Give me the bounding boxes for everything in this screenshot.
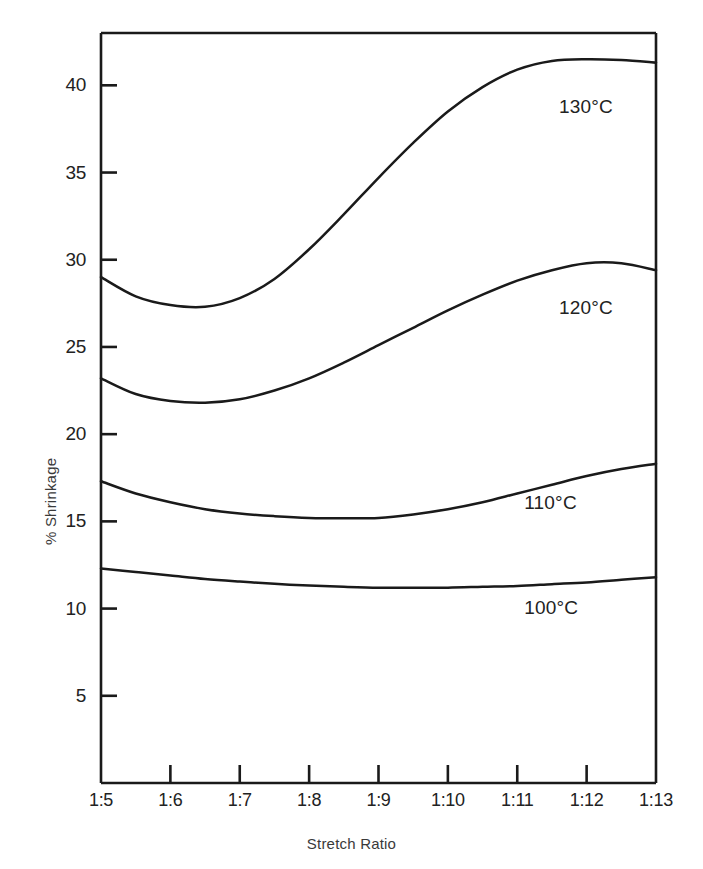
- x-tick-label: 1:7: [200, 790, 280, 811]
- y-tick-label: 5: [40, 685, 86, 707]
- x-tick-label: 1:6: [130, 790, 210, 811]
- y-axis-ticks: [101, 85, 117, 695]
- x-tick-label: 1:12: [547, 790, 627, 811]
- y-tick-label: 35: [40, 162, 86, 184]
- plot-area: [0, 0, 703, 869]
- series-label-100C: 100°C: [524, 597, 578, 619]
- y-tick-label: 25: [40, 336, 86, 358]
- y-tick-label: 20: [40, 423, 86, 445]
- y-tick-label: 30: [40, 249, 86, 271]
- x-axis-title: Stretch Ratio: [0, 835, 703, 852]
- x-tick-label: 1:5: [61, 790, 141, 811]
- y-axis-tick-labels: 510152025303540: [28, 0, 86, 869]
- y-tick-label: 10: [40, 598, 86, 620]
- series-label-110C: 110°C: [524, 492, 577, 514]
- chart-figure: % Shrinkage 510152025303540 1:51:61:71:8…: [0, 0, 703, 869]
- x-tick-label: 1:11: [477, 790, 557, 811]
- x-tick-label: 1:13: [616, 790, 696, 811]
- x-tick-label: 1:9: [339, 790, 419, 811]
- y-tick-label: 15: [40, 510, 86, 532]
- x-tick-label: 1:8: [269, 790, 349, 811]
- y-tick-label: 40: [40, 74, 86, 96]
- series-curve-120C: [101, 262, 656, 402]
- x-tick-label: 1:10: [408, 790, 488, 811]
- axis-frame: [101, 33, 656, 783]
- axis-spines: [101, 33, 656, 783]
- series-label-120C: 120°C: [559, 297, 613, 319]
- x-axis-ticks: [170, 765, 586, 783]
- series-label-130C: 130°C: [559, 96, 613, 118]
- series-curve-100C: [101, 568, 656, 587]
